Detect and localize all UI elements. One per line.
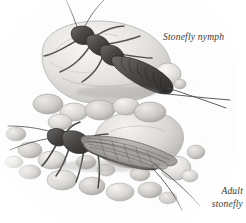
label-adult-line2: stonefly	[212, 198, 243, 211]
label-adult-line1: Adult	[212, 185, 243, 198]
label-stonefly-nymph: Stonefly nymph	[163, 32, 224, 42]
illustration-plate: Stonefly nymph Adult stonefly	[0, 0, 246, 223]
label-adult-stonefly: Adult stonefly	[212, 185, 243, 211]
